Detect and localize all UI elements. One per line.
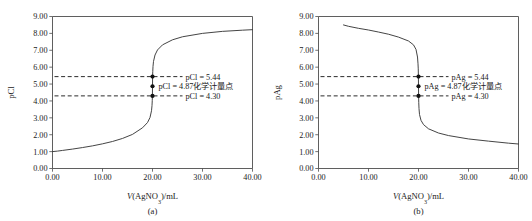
- marker-point: [150, 94, 154, 98]
- y-tick-label: 4.00: [299, 97, 313, 106]
- x-axis-title-reagent: (AgNO: [132, 191, 158, 201]
- x-tick-label: 40.00: [509, 173, 527, 182]
- y-tick-label: 2.00: [299, 131, 313, 140]
- data-markers: [150, 75, 154, 98]
- data-markers: [416, 75, 420, 98]
- x-tick-label: 40.00: [243, 173, 261, 182]
- x-tick-label: 30.00: [459, 173, 477, 182]
- y-tick-label: 1.00: [299, 148, 313, 157]
- marker-point: [150, 75, 154, 79]
- annotation-equivalence: pCl = 4.87化学计量点: [159, 81, 234, 91]
- x-tick-label: 10.00: [359, 173, 377, 182]
- y-tick-label: 6.00: [299, 63, 313, 72]
- y-axis-title: pAg: [272, 84, 282, 100]
- titration-curves-figure: 0.001.002.003.004.005.006.007.008.009.00…: [0, 0, 532, 221]
- panel-caption: (b): [413, 206, 423, 216]
- x-tick-label: 0.00: [311, 173, 325, 182]
- y-tick-label: 8.00: [33, 29, 47, 38]
- y-tick-label: 9.00: [299, 12, 313, 21]
- annotation-lower: pCl = 4.30: [186, 92, 221, 101]
- annotation-lower: pAg = 4.30: [452, 92, 489, 101]
- x-axis: 0.0010.0020.0030.0040.00: [45, 169, 261, 183]
- annotation-equivalence: pAg = 4.87化学计量点: [425, 81, 502, 91]
- y-tick-label: 2.00: [33, 131, 47, 140]
- marker-point: [416, 75, 420, 79]
- x-tick-label: 0.00: [45, 173, 59, 182]
- y-tick-label: 9.00: [33, 12, 47, 21]
- panel-a-plot: 0.001.002.003.004.005.006.007.008.009.00…: [0, 0, 266, 221]
- x-tick-label: 20.00: [409, 173, 427, 182]
- y-tick-label: 7.00: [33, 46, 47, 55]
- y-tick-label: 7.00: [299, 46, 313, 55]
- x-axis-title-reagent: (AgNO: [398, 191, 424, 201]
- annotation-upper: pCl = 5.44: [186, 73, 221, 82]
- x-axis-title: V(AgNO3)/mL: [127, 191, 178, 205]
- x-axis-title-units: )/mL: [161, 191, 178, 201]
- y-tick-label: 3.00: [33, 114, 47, 123]
- x-axis-title: V(AgNO3)/mL: [393, 191, 444, 205]
- x-tick-label: 30.00: [193, 173, 211, 182]
- panel-a: 0.001.002.003.004.005.006.007.008.009.00…: [0, 0, 266, 221]
- y-tick-label: 5.00: [299, 80, 313, 89]
- x-axis: 0.0010.0020.0030.0040.00: [311, 169, 527, 183]
- y-axis: 0.001.002.003.004.005.006.007.008.009.00: [33, 12, 52, 173]
- panel-b: 0.001.002.003.004.005.006.007.008.009.00…: [266, 0, 532, 221]
- panel-caption: (a): [148, 206, 158, 216]
- y-axis: 0.001.002.003.004.005.006.007.008.009.00: [299, 12, 318, 173]
- x-axis-title-units: )/mL: [427, 191, 444, 201]
- x-tick-label: 20.00: [143, 173, 161, 182]
- y-axis-title: pCl: [6, 86, 16, 99]
- marker-point: [150, 84, 154, 88]
- y-tick-label: 4.00: [33, 97, 47, 106]
- y-tick-label: 3.00: [299, 114, 313, 123]
- y-tick-label: 8.00: [299, 29, 313, 38]
- y-tick-label: 5.00: [33, 80, 47, 89]
- y-tick-label: 6.00: [33, 63, 47, 72]
- y-tick-label: 1.00: [33, 148, 47, 157]
- annotation-upper: pAg = 5.44: [452, 73, 489, 82]
- marker-point: [416, 94, 420, 98]
- x-tick-label: 10.00: [93, 173, 111, 182]
- marker-point: [416, 84, 420, 88]
- panel-b-plot: 0.001.002.003.004.005.006.007.008.009.00…: [266, 0, 532, 221]
